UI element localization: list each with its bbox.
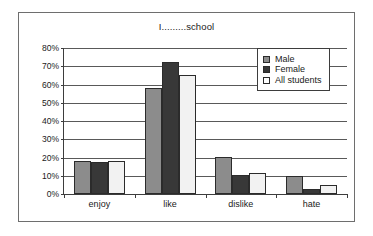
y-axis-tick-mark [61, 66, 64, 67]
y-axis-tick-mark [61, 176, 64, 177]
x-axis-separator-tick [64, 194, 65, 198]
bar-group-enjoy [64, 48, 135, 194]
legend-swatch-female [263, 66, 270, 73]
x-axis-tick-label-enjoy: enjoy [89, 199, 111, 209]
legend-swatch-all-students [263, 77, 270, 84]
bar-all-students-enjoy[interactable] [108, 161, 125, 194]
chart-legend: MaleFemaleAll students [257, 48, 330, 91]
bar-male-hate[interactable] [286, 176, 303, 194]
bar-group-like [135, 48, 206, 194]
bar-female-dislike[interactable] [232, 175, 249, 194]
bar-all-students-dislike[interactable] [249, 173, 266, 194]
legend-swatch-male [263, 56, 270, 63]
bar-male-like[interactable] [145, 88, 162, 194]
bar-female-enjoy[interactable] [91, 162, 108, 194]
x-axis-tick-label-hate: hate [303, 199, 321, 209]
bar-all-students-hate[interactable] [320, 185, 337, 194]
y-axis-tick-label: 70% [42, 62, 59, 71]
chart-title: I.........school [19, 21, 354, 32]
y-axis-tick-label: 80% [42, 44, 59, 53]
y-axis-tick-mark [61, 139, 64, 140]
x-axis-separator-tick [206, 194, 207, 198]
chart-figure: I.........school 0%10%20%30%40%50%60%70%… [18, 12, 355, 222]
y-axis-tick-label: 60% [42, 80, 59, 89]
y-axis-tick-mark [61, 85, 64, 86]
legend-item-label: Male [275, 55, 295, 64]
x-axis-tick-label-like: like [163, 199, 177, 209]
y-axis-tick-mark [61, 121, 64, 122]
bar-female-like[interactable] [162, 62, 179, 194]
x-axis-separator-tick [347, 194, 348, 198]
legend-item-label: All students [275, 76, 322, 85]
x-axis-tick-label-dislike: dislike [228, 199, 253, 209]
y-axis-tick-label: 50% [42, 99, 59, 108]
legend-item-all-students[interactable]: All students [263, 76, 322, 85]
x-axis-separator-tick [276, 194, 277, 198]
y-axis-tick-mark [61, 103, 64, 104]
y-axis-tick-label: 40% [42, 117, 59, 126]
y-axis-tick-label: 30% [42, 135, 59, 144]
legend-item-female[interactable]: Female [263, 65, 322, 74]
bar-all-students-like[interactable] [179, 75, 196, 194]
y-axis-tick-mark [61, 158, 64, 159]
y-axis-tick-label: 0% [47, 190, 59, 199]
x-axis-separator-tick [135, 194, 136, 198]
y-axis-tick-label: 20% [42, 153, 59, 162]
bar-male-enjoy[interactable] [74, 161, 91, 194]
bar-male-dislike[interactable] [215, 157, 232, 194]
y-axis-tick-label: 10% [42, 172, 59, 181]
legend-item-male[interactable]: Male [263, 55, 322, 64]
bar-female-hate[interactable] [303, 189, 320, 194]
legend-item-label: Female [275, 65, 305, 74]
y-axis-tick-mark [61, 48, 64, 49]
